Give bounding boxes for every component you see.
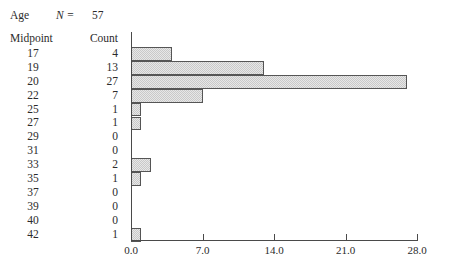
bar xyxy=(131,117,141,131)
bar xyxy=(131,89,203,103)
bar xyxy=(131,158,151,172)
bar xyxy=(131,228,141,242)
bar xyxy=(131,75,407,89)
bar xyxy=(131,61,264,75)
histogram-figure: AgeN =57 Midpoint Count 1741913202722725… xyxy=(0,0,458,270)
bar xyxy=(131,172,141,186)
bar xyxy=(131,103,141,117)
bar-series xyxy=(0,0,458,270)
bar xyxy=(131,47,172,61)
